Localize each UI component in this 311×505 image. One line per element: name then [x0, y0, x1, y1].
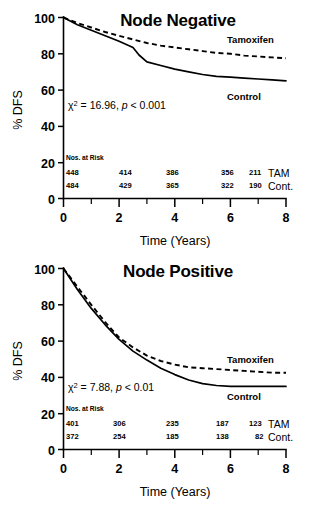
x-axis-title: Time (Years) — [140, 234, 211, 248]
y-tick-60: 60 — [41, 335, 55, 349]
stat-equals: = 16.96, — [78, 99, 122, 111]
x-tick-2: 2 — [116, 211, 123, 225]
risk-cont-0: 372 — [66, 432, 79, 441]
y-tick-60: 60 — [41, 84, 55, 98]
risk-table-heading: Nos. at Risk — [66, 405, 104, 412]
y-tick-80: 80 — [41, 48, 55, 62]
y-axis-ticks — [58, 18, 64, 199]
x-tick-6: 6 — [227, 462, 234, 476]
risk-row-label-tam: TAM — [268, 167, 289, 179]
risk-row-tam: 401 306 235 187 123 — [66, 419, 262, 428]
risk-tam-8: 123 — [249, 419, 262, 428]
x-tick-4: 4 — [171, 211, 178, 225]
y-axis-tick-labels: 100 80 60 40 20 0 — [34, 263, 55, 458]
risk-tam-4: 235 — [166, 419, 179, 428]
y-tick-100: 100 — [34, 12, 55, 26]
numbers-at-risk-table: Nos. at Risk 448 414 386 356 211 TAM 484… — [66, 154, 293, 192]
risk-tam-6: 356 — [221, 168, 234, 177]
risk-cont-4: 185 — [166, 432, 179, 441]
risk-row-tam: 448 414 386 356 211 — [66, 168, 262, 177]
risk-row-cont: 372 254 185 138 82 — [66, 432, 263, 441]
x-tick-6: 6 — [227, 211, 234, 225]
curve-control — [64, 269, 287, 387]
y-tick-20: 20 — [41, 408, 55, 422]
risk-cont-8: 190 — [249, 181, 262, 190]
x-tick-8: 8 — [283, 211, 290, 225]
risk-tam-0: 401 — [66, 419, 79, 428]
y-axis-ticks — [58, 269, 64, 450]
risk-row-label-cont: Cont. — [268, 180, 293, 192]
statistics-annotation: χ2 = 7.88, p < 0.01 — [68, 381, 154, 394]
y-tick-0: 0 — [48, 444, 55, 458]
figure-root: 100 80 60 40 20 0 0 2 4 6 8 Time (Years)… — [0, 0, 311, 505]
y-tick-20: 20 — [41, 157, 55, 171]
y-axis-tick-labels: 100 80 60 40 20 0 — [34, 12, 55, 207]
risk-cont-8: 82 — [255, 432, 263, 441]
risk-tam-4: 386 — [166, 168, 179, 177]
x-axis-tick-labels: 0 2 4 6 8 — [60, 211, 290, 225]
x-tick-8: 8 — [283, 462, 290, 476]
risk-tam-2: 306 — [113, 419, 126, 428]
x-axis-title: Time (Years) — [140, 485, 211, 499]
risk-cont-6: 322 — [221, 181, 234, 190]
curve-label-tamoxifen: Tamoxifen — [227, 34, 274, 45]
risk-cont-0: 484 — [66, 181, 79, 190]
y-tick-0: 0 — [48, 193, 55, 207]
risk-table-heading: Nos. at Risk — [66, 154, 104, 161]
x-tick-0: 0 — [60, 211, 67, 225]
curve-label-tamoxifen: Tamoxifen — [227, 354, 274, 365]
x-tick-0: 0 — [60, 462, 67, 476]
risk-tam-0: 448 — [66, 168, 79, 177]
node-positive-svg: 100 80 60 40 20 0 0 2 4 6 8 Time (Years)… — [0, 251, 311, 505]
risk-tam-6: 187 — [216, 419, 229, 428]
page-title: Node Positive — [123, 262, 233, 281]
x-tick-2: 2 — [116, 462, 123, 476]
x-axis-tick-labels: 0 2 4 6 8 — [60, 462, 290, 476]
y-tick-40: 40 — [41, 371, 55, 385]
p-value: < 0.001 — [128, 99, 166, 111]
stat-equals: = 7.88, — [78, 381, 116, 393]
y-tick-40: 40 — [41, 120, 55, 134]
x-axis-ticks — [64, 199, 287, 208]
risk-row-label-tam: TAM — [268, 418, 289, 430]
risk-cont-2: 254 — [113, 432, 126, 441]
p-value: < 0.01 — [122, 381, 155, 393]
y-axis-title: % DFS — [11, 341, 25, 381]
numbers-at-risk-table: Nos. at Risk 401 306 235 187 123 TAM 372… — [66, 405, 293, 443]
risk-tam-2: 414 — [119, 168, 132, 177]
y-tick-80: 80 — [41, 299, 55, 313]
y-axis-title: % DFS — [11, 90, 25, 130]
x-tick-4: 4 — [171, 462, 178, 476]
x-axis-ticks — [64, 450, 287, 459]
risk-cont-6: 138 — [216, 432, 229, 441]
risk-cont-2: 429 — [119, 181, 132, 190]
risk-tam-8: 211 — [249, 168, 262, 177]
risk-row-cont: 484 429 365 322 190 — [66, 181, 262, 190]
page-title: Node Negative — [120, 11, 236, 30]
risk-row-label-cont: Cont. — [268, 431, 293, 443]
chart-panel-node-negative: 100 80 60 40 20 0 0 2 4 6 8 Time (Years)… — [0, 0, 311, 252]
statistics-annotation: χ2 = 16.96, p < 0.001 — [68, 99, 166, 112]
curve-label-control: Control — [227, 91, 261, 102]
risk-cont-4: 365 — [166, 181, 179, 190]
curve-label-control: Control — [227, 391, 261, 402]
y-tick-100: 100 — [34, 263, 55, 277]
node-negative-svg: 100 80 60 40 20 0 0 2 4 6 8 Time (Years)… — [0, 0, 311, 252]
chart-panel-node-positive: 100 80 60 40 20 0 0 2 4 6 8 Time (Years)… — [0, 251, 311, 503]
